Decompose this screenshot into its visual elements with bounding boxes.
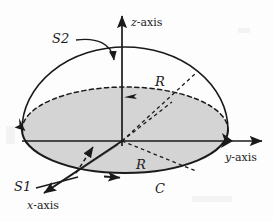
y-axis-label: y-axis <box>225 152 257 163</box>
s1-leader-line <box>36 177 78 188</box>
x-axis-label-rest: -axis <box>33 199 59 212</box>
radius-upper-label: R <box>155 75 165 88</box>
s1-label: S1 <box>14 180 31 193</box>
s2-leader-arrow <box>76 39 114 60</box>
s2-label: S2 <box>52 32 69 45</box>
radius-lower-label: R <box>136 158 146 171</box>
y-axis-label-rest: -axis <box>231 151 257 164</box>
hemisphere-diagram <box>0 0 273 222</box>
z-axis-label: z-axis <box>131 17 162 28</box>
curve-c-label: C <box>155 182 165 195</box>
x-axis-label: x-axis <box>27 200 59 211</box>
curve-c-direction-arrow <box>104 177 120 178</box>
z-axis-label-rest: -axis <box>137 16 163 29</box>
figure-root: z-axis y-axis x-axis S2 S1 R R C <box>0 0 273 222</box>
